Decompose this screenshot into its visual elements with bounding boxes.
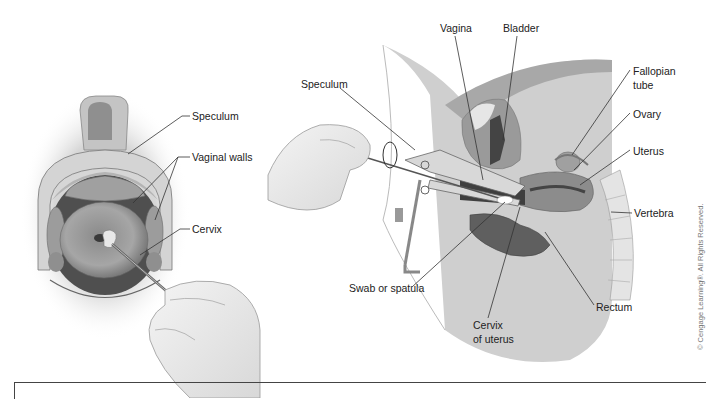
label-speculum-left: Speculum: [192, 110, 239, 122]
left-speculum-view: [20, 90, 260, 398]
label-vertebra: Vertebra: [634, 207, 674, 219]
label-speculum-right: Speculum: [301, 78, 348, 90]
label-cervix-left: Cervix: [192, 223, 222, 235]
bottom-frame-border: [14, 382, 706, 399]
copyright-notice: © Cengage Learning®. All Rights Reserved…: [696, 203, 705, 350]
label-cervix-of-uterus-line1: Cervix: [473, 319, 503, 331]
label-cervix-of-uterus-line2: of uterus: [473, 333, 514, 345]
label-vaginal-walls: Vaginal walls: [192, 151, 253, 163]
label-uterus: Uterus: [633, 145, 664, 157]
label-bladder: Bladder: [503, 22, 539, 34]
label-fallopian-tube-line1: Fallopian: [633, 65, 676, 77]
label-fallopian-tube-line2: tube: [633, 79, 653, 91]
label-vagina: Vagina: [440, 22, 472, 34]
label-ovary: Ovary: [633, 108, 661, 120]
label-swab-or-spatula: Swab or spatula: [349, 282, 424, 294]
label-rectum: Rectum: [596, 301, 632, 313]
